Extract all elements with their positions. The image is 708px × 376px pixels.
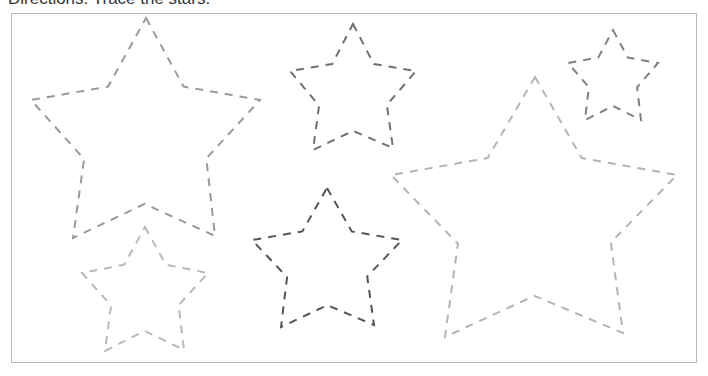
star-medium-top-outline [290, 24, 416, 150]
star-small-top-right-outline [568, 30, 658, 120]
star-large-right-outline [391, 77, 677, 337]
star-tracing-canvas [0, 0, 708, 376]
star-medium-bottom-outline [252, 188, 402, 327]
star-large-left-outline [31, 18, 260, 238]
star-small-bottom-left-outline [82, 227, 208, 351]
